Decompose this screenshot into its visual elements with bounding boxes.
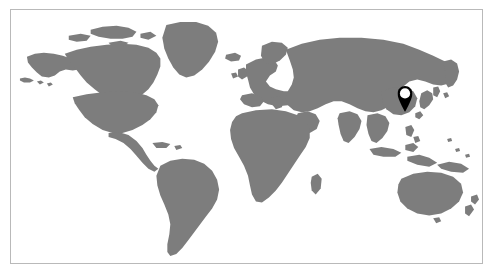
figure-root <box>0 0 490 278</box>
world-map-canvas <box>11 10 482 263</box>
map-pin-center-dot <box>400 89 410 99</box>
map-pin-icon <box>397 86 412 112</box>
map-pin-marker[interactable] <box>397 86 412 116</box>
map-frame <box>10 9 483 264</box>
